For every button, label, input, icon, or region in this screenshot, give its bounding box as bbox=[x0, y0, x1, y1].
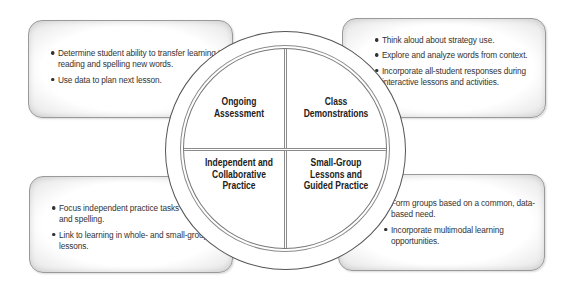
bullet-item: Explore and analyze words from context. bbox=[375, 49, 546, 60]
quadrant-label-line: Demonstrations bbox=[297, 108, 375, 120]
bullet-list: Form groups based on a common, data-base… bbox=[384, 197, 539, 251]
quadrant-label-line: Small-Group bbox=[295, 157, 377, 169]
bullet-item: Incorporate multimodal learning opportun… bbox=[384, 224, 546, 247]
quadrant-circle: Ongoing Assessment Class Demonstrations … bbox=[183, 48, 387, 249]
quadrant-label-line: Class bbox=[297, 96, 375, 108]
quadrant-label-line: Practice bbox=[199, 180, 279, 192]
bullet-item: Think aloud about strategy use. bbox=[375, 34, 546, 45]
horizontal-divider bbox=[184, 148, 386, 151]
bullet-item: Form groups based on a common, data-base… bbox=[384, 197, 546, 220]
quadrant-label-line: Guided Practice bbox=[295, 180, 377, 192]
quadrant-label-line: Ongoing bbox=[201, 96, 278, 108]
quadrant-small-group-guided-practice: Small-Group Lessons and Guided Practice bbox=[295, 157, 377, 192]
bullet-item: Incorporate all-student responses during… bbox=[375, 65, 546, 88]
quadrant-label-line: Collaborative bbox=[199, 169, 279, 181]
quadrant-ongoing-assessment: Ongoing Assessment bbox=[201, 96, 278, 119]
quadrant-independent-collaborative-practice: Independent and Collaborative Practice bbox=[199, 157, 279, 192]
quadrant-label-line: Lessons and bbox=[295, 169, 377, 181]
quadrant-class-demonstrations: Class Demonstrations bbox=[297, 96, 375, 119]
quadrant-label-line: Assessment bbox=[201, 108, 278, 120]
quadrant-label-line: Independent and bbox=[199, 157, 279, 169]
bullet-list: Think aloud about strategy use. Explore … bbox=[375, 34, 540, 92]
